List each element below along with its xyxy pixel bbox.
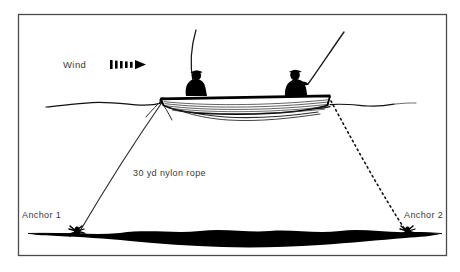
anchor-2-label: Anchor 2 [404,210,443,220]
anchor-1-label: Anchor 1 [22,210,61,220]
wind-label: Wind [63,59,86,70]
rope-label: 30 yd nylon rope [133,168,206,178]
figure-page: Wind 30 yd nylon rope Anchor 1 Anchor 2 [0,0,460,272]
boat-anchoring-diagram: Wind 30 yd nylon rope Anchor 1 Anchor 2 [0,0,460,272]
